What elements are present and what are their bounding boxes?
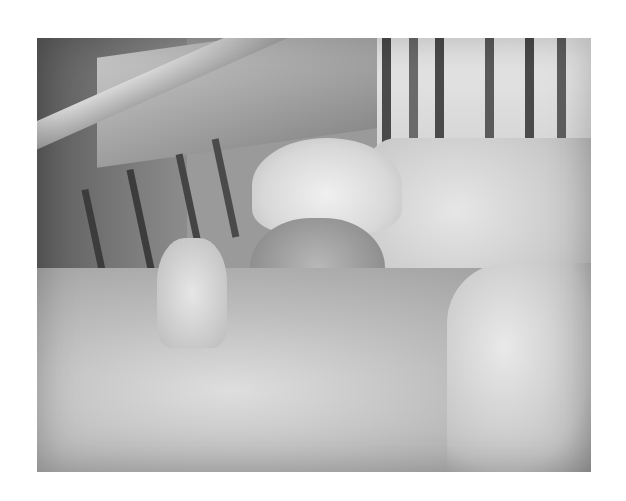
- photo: [37, 38, 591, 472]
- vignette: [37, 38, 591, 472]
